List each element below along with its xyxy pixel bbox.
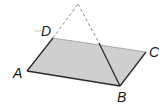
label-b: B [117, 89, 126, 105]
dashed-segment-apex-cross [78, 4, 99, 43]
plane-abcd [27, 38, 146, 86]
label-d: D [41, 23, 51, 39]
label-c: C [149, 44, 160, 60]
dashed-segment-d-apex [53, 4, 78, 38]
label-a: A [12, 65, 22, 81]
geometry-diagram: D A B C [0, 0, 164, 107]
